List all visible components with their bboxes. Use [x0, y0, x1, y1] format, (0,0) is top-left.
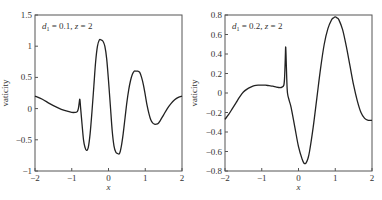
y-tick-label: −1 [22, 166, 32, 176]
figure: −2−1012−1−0.500.511.5xvaticityd1 = 0.1, … [0, 0, 382, 200]
x-tick-label: 1 [333, 173, 338, 183]
y-tick-label: 1 [28, 41, 33, 51]
y-tick-label: −0.2 [206, 108, 222, 118]
vorticity-curve [225, 17, 372, 164]
y-tick-label: 1.5 [21, 10, 33, 20]
y-tick-label: 0 [218, 88, 223, 98]
y-axis-label: vaticity [189, 79, 199, 106]
vorticity-curve [35, 39, 182, 154]
y-tick-label: 0 [28, 104, 33, 114]
y-tick-label: 0.6 [211, 30, 223, 40]
chart-2: −2−1012−0.8−0.6−0.4−0.200.20.40.60.8xvat… [189, 10, 374, 192]
y-tick-label: 0.8 [211, 10, 223, 20]
y-tick-label: 0.2 [211, 69, 222, 79]
chart-1: −2−1012−1−0.500.511.5xvaticityd1 = 0.1, … [0, 10, 184, 192]
parameter-annotation: d1 = 0.2, z = 2 [232, 21, 282, 32]
y-tick-label: −0.6 [206, 147, 223, 157]
x-axis-label: x [296, 182, 301, 192]
x-tick-label: −1 [257, 173, 267, 183]
y-tick-label: 0.5 [21, 72, 33, 82]
x-axis-label: x [106, 182, 111, 192]
x-tick-label: 2 [370, 173, 375, 183]
x-tick-label: 2 [180, 173, 185, 183]
y-axis-label: vaticity [0, 79, 10, 106]
plot-frame [35, 15, 182, 171]
y-tick-label: 0.4 [211, 49, 223, 59]
y-tick-label: −0.5 [16, 135, 33, 145]
x-tick-label: 1 [143, 173, 148, 183]
y-tick-label: −0.4 [206, 127, 223, 137]
y-tick-label: −0.8 [206, 166, 223, 176]
parameter-annotation: d1 = 0.1, z = 2 [42, 21, 92, 32]
x-tick-label: −1 [67, 173, 77, 183]
